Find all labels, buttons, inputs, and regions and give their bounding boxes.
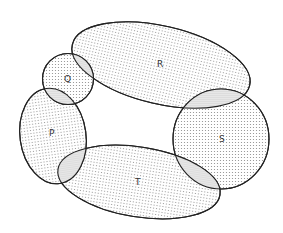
- label-r: R: [157, 59, 163, 69]
- label-t: T: [134, 177, 141, 187]
- label-s: S: [219, 134, 225, 144]
- set-diagram: Q R S T P: [0, 0, 283, 233]
- label-q: Q: [64, 74, 71, 84]
- label-p: P: [49, 128, 55, 138]
